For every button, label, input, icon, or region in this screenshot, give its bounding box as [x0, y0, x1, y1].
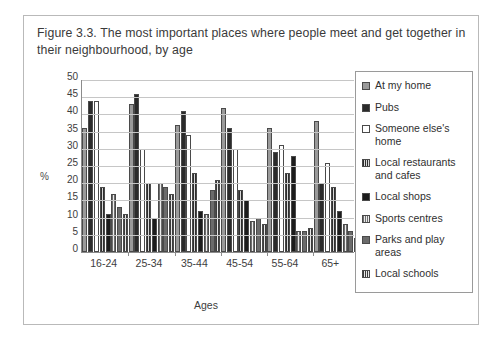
x-tick-label: 45-54	[217, 257, 262, 269]
bar	[129, 104, 134, 252]
bar	[244, 200, 249, 252]
bar	[331, 187, 336, 252]
bar	[106, 214, 111, 252]
legend-label: Someone else's home	[375, 122, 467, 147]
bar	[192, 173, 197, 252]
y-tick-label: 45	[67, 88, 78, 99]
gridline	[82, 218, 354, 219]
y-tick-label: 25	[67, 157, 78, 168]
legend-label: Local restaurants and cafes	[375, 156, 467, 181]
bar	[325, 163, 330, 252]
bar	[169, 194, 174, 252]
legend-swatch-icon	[362, 215, 370, 223]
legend-swatch-icon	[362, 82, 370, 90]
legend-swatch-icon	[362, 125, 370, 133]
gridline	[82, 235, 354, 236]
bar	[82, 128, 87, 252]
legend-swatch-icon	[362, 236, 370, 244]
x-tick-label: 65+	[308, 257, 353, 269]
bar	[88, 101, 93, 252]
legend-swatch-icon	[362, 159, 370, 167]
x-tick-label: 55-64	[262, 257, 307, 269]
bar	[227, 128, 232, 252]
legend-label: Pubs	[375, 101, 399, 114]
y-axis-tick-labels: 50454035302520151050	[50, 76, 78, 256]
gridline	[82, 183, 354, 184]
bar	[262, 224, 267, 252]
gridline	[82, 200, 354, 201]
x-tick-label: 25-34	[126, 257, 171, 269]
bar	[221, 108, 226, 252]
y-tick-label: 15	[67, 191, 78, 202]
legend-item[interactable]: At my home	[362, 79, 467, 92]
gridline	[82, 80, 354, 81]
legend-label: At my home	[375, 79, 431, 92]
legend-label: Sports centres	[375, 212, 443, 225]
gridline	[82, 114, 354, 115]
chart-legend: At my homePubsSomeone else's homeLocal r…	[355, 71, 473, 293]
legend-label: Local shops	[375, 190, 431, 203]
bar	[314, 121, 319, 252]
y-tick-label: 35	[67, 122, 78, 133]
legend-label: Parks and play areas	[375, 233, 467, 258]
bar	[343, 224, 348, 252]
bar	[111, 194, 116, 252]
bar	[273, 152, 278, 252]
legend-label: Local schools	[375, 267, 439, 280]
bar	[308, 228, 313, 252]
gridline	[82, 149, 354, 150]
y-tick-label: 30	[67, 139, 78, 150]
bar	[94, 101, 99, 252]
legend-item[interactable]: Local schools	[362, 267, 467, 280]
legend-swatch-icon	[362, 270, 370, 278]
bar	[163, 187, 168, 252]
gridline	[82, 97, 354, 98]
y-tick-label: 5	[72, 225, 78, 236]
legend-item[interactable]: Local shops	[362, 190, 467, 203]
bar	[285, 173, 290, 252]
bar	[134, 94, 139, 252]
x-axis-tick-labels: 16-2425-3435-4445-5455-6465+	[81, 257, 353, 269]
gridline	[82, 132, 354, 133]
bar	[279, 145, 284, 252]
legend-swatch-icon	[362, 104, 370, 112]
y-tick-label: 20	[67, 174, 78, 185]
legend-item[interactable]: Pubs	[362, 101, 467, 114]
x-tick-label: 16-24	[81, 257, 126, 269]
bar	[100, 187, 105, 252]
bar	[291, 156, 296, 252]
plot-area	[81, 80, 354, 253]
y-tick-label: 10	[67, 208, 78, 219]
bar	[204, 214, 209, 252]
y-axis-title: %	[40, 171, 49, 182]
bar	[215, 180, 220, 252]
bar	[123, 214, 128, 252]
bar	[267, 128, 272, 252]
x-axis-title: Ages	[194, 299, 218, 311]
bar	[175, 125, 180, 252]
bar	[238, 190, 243, 252]
gridline	[82, 166, 354, 167]
legend-swatch-icon	[362, 193, 370, 201]
legend-item[interactable]: Sports centres	[362, 212, 467, 225]
legend-item[interactable]: Local restaurants and cafes	[362, 156, 467, 181]
legend-item[interactable]: Someone else's home	[362, 122, 467, 147]
bar	[210, 190, 215, 252]
figure-frame: Figure 3.3. The most important places wh…	[23, 15, 479, 325]
bar	[117, 207, 122, 252]
y-tick-label: 50	[67, 71, 78, 82]
bar	[250, 221, 255, 252]
y-tick-label: 0	[72, 243, 78, 254]
legend-item[interactable]: Parks and play areas	[362, 233, 467, 258]
y-tick-label: 40	[67, 105, 78, 116]
x-tick-label: 35-44	[172, 257, 217, 269]
